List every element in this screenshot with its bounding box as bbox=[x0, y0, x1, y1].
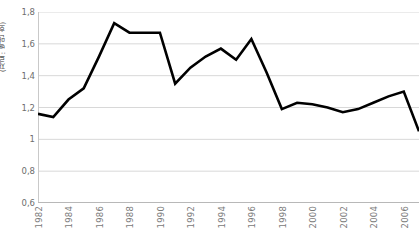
chart-root: (자료: 백만 호) 1,81,61,41,210,80,6 198219841… bbox=[0, 0, 420, 240]
x-tick-label: 2002 bbox=[339, 206, 349, 228]
x-tick-label: 1994 bbox=[217, 206, 227, 228]
x-tick-label: 2006 bbox=[400, 206, 410, 228]
x-axis-tick-labels: 1982198419861988199019921994199619982000… bbox=[0, 0, 420, 240]
x-tick-label: 2000 bbox=[308, 206, 318, 228]
x-tick-label: 1992 bbox=[186, 206, 196, 228]
x-tick-label: 1998 bbox=[278, 206, 288, 228]
x-tick-label: 1986 bbox=[95, 206, 105, 228]
x-tick-label: 1990 bbox=[156, 206, 166, 228]
x-tick-label: 1988 bbox=[125, 206, 135, 228]
x-tick-label: 1984 bbox=[64, 206, 74, 228]
x-tick-label: 1996 bbox=[247, 206, 257, 228]
x-tick-label: 1982 bbox=[34, 206, 44, 228]
x-tick-label: 2004 bbox=[369, 206, 379, 228]
